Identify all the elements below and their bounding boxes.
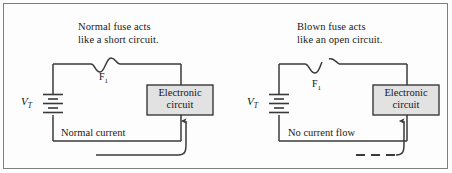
right-battery-symbol [269, 95, 289, 113]
left-caption-line1: Normal fuse acts [78, 20, 151, 33]
left-load-label-line2: circuit [147, 99, 213, 112]
left-battery-symbol [43, 95, 63, 113]
left-load-label-line1: Electronic [147, 87, 213, 100]
left-fuse-symbol [91, 58, 120, 72]
left-fuse-label: F1 [99, 71, 108, 85]
left-source-subscript: T [28, 101, 32, 110]
right-caption-line1: Blown fuse acts [297, 20, 366, 33]
right-source-symbol: V [247, 95, 254, 107]
left-fuse-subscript: 1 [105, 77, 109, 85]
left-source-symbol: V [21, 95, 28, 107]
left-caption-line2: like a short circuit. [78, 33, 159, 46]
right-current-arrow [396, 121, 404, 155]
right-caption-line2: like an open circuit. [297, 33, 383, 46]
right-load-label-line2: circuit [373, 99, 439, 112]
right-source-label: VT [247, 95, 258, 110]
left-current-label: Normal current [61, 127, 125, 138]
right-fuse-right-half [329, 59, 339, 64]
right-fuse-subscript: 1 [318, 84, 322, 92]
right-fuse-label: F1 [312, 78, 321, 92]
right-current-label: No current flow [288, 127, 355, 138]
right-source-subscript: T [254, 101, 258, 110]
right-fuse-left-half [305, 62, 322, 73]
fuse-comparison-figure: Normal fuse acts like a short circuit. V… [0, 0, 452, 173]
left-source-label: VT [21, 95, 32, 110]
right-load-label-line1: Electronic [373, 87, 439, 100]
